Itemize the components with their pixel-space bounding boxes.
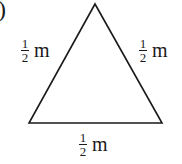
numerator: 1 (22, 38, 29, 49)
numerator: 1 (80, 132, 87, 143)
denominator: 2 (80, 146, 87, 157)
denominator: 2 (22, 52, 29, 63)
side-label-left: 1 2 m (21, 38, 50, 63)
side-label-bottom: 1 2 m (79, 132, 108, 157)
denominator: 2 (140, 52, 147, 63)
fraction: 1 2 (139, 38, 147, 63)
unit: m (92, 133, 108, 156)
side-label-right: 1 2 m (139, 38, 168, 63)
fraction: 1 2 (79, 132, 87, 157)
numerator: 1 (140, 38, 147, 49)
unit: m (34, 39, 50, 62)
unit: m (152, 39, 168, 62)
fraction: 1 2 (21, 38, 29, 63)
